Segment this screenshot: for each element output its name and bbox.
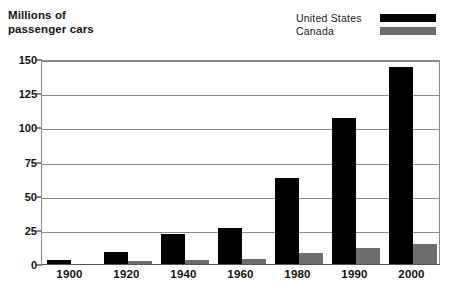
bar-canada-1940 [185,260,209,264]
x-axis-tick-label: 1980 [268,268,328,280]
y-axis-tick-label: 75 [3,157,37,169]
page-title: Millions of passenger cars [8,8,94,36]
bar-united-states-1940 [161,234,185,264]
x-axis-tick-label: 1920 [97,268,157,280]
chart-legend: United States Canada [296,12,448,36]
y-axis-tick-label: 150 [3,54,37,66]
bar-group-1990 [332,61,380,264]
x-axis-tick-label: 1940 [154,268,214,280]
y-axis-tick-label: 25 [3,225,37,237]
legend-swatch-united-states [380,14,436,22]
x-axis-tick-label: 1900 [40,268,100,280]
bar-united-states-1900 [47,260,71,264]
bar-canada-1960 [242,259,266,264]
bar-united-states-1960 [218,228,242,264]
chart-container: Millions of passenger cars United States… [0,0,458,299]
y-axis-tick-label: 50 [3,191,37,203]
bar-united-states-2000 [389,67,413,264]
y-axis-tick-label: 100 [3,122,37,134]
legend-label-canada: Canada [296,25,380,37]
x-axis-tick-label: 2000 [382,268,442,280]
bar-united-states-1920 [104,252,128,264]
bar-series-group [42,61,439,264]
legend-item-united-states: United States [296,12,448,23]
bar-group-1960 [218,61,266,264]
bar-united-states-1990 [332,118,356,264]
bar-group-1940 [161,61,209,264]
x-axis-tick-label: 1990 [325,268,385,280]
legend-item-canada: Canada [296,25,448,36]
x-axis-tick-label: 1960 [211,268,271,280]
plot-area [41,60,440,265]
bar-united-states-1980 [275,178,299,264]
bar-group-2000 [389,61,437,264]
legend-swatch-canada [380,27,436,35]
bar-canada-1990 [356,248,380,264]
y-axis-tick-label: 0 [3,259,37,271]
bar-group-1980 [275,61,323,264]
bar-canada-1920 [128,261,152,264]
bar-group-1920 [104,61,152,264]
x-axis: 1900192019401960198019902000 [41,268,440,290]
legend-label-united-states: United States [296,12,380,24]
y-axis-tick-label: 125 [3,88,37,100]
bar-canada-2000 [413,244,437,265]
bar-canada-1980 [299,253,323,264]
bar-group-1900 [47,61,95,264]
